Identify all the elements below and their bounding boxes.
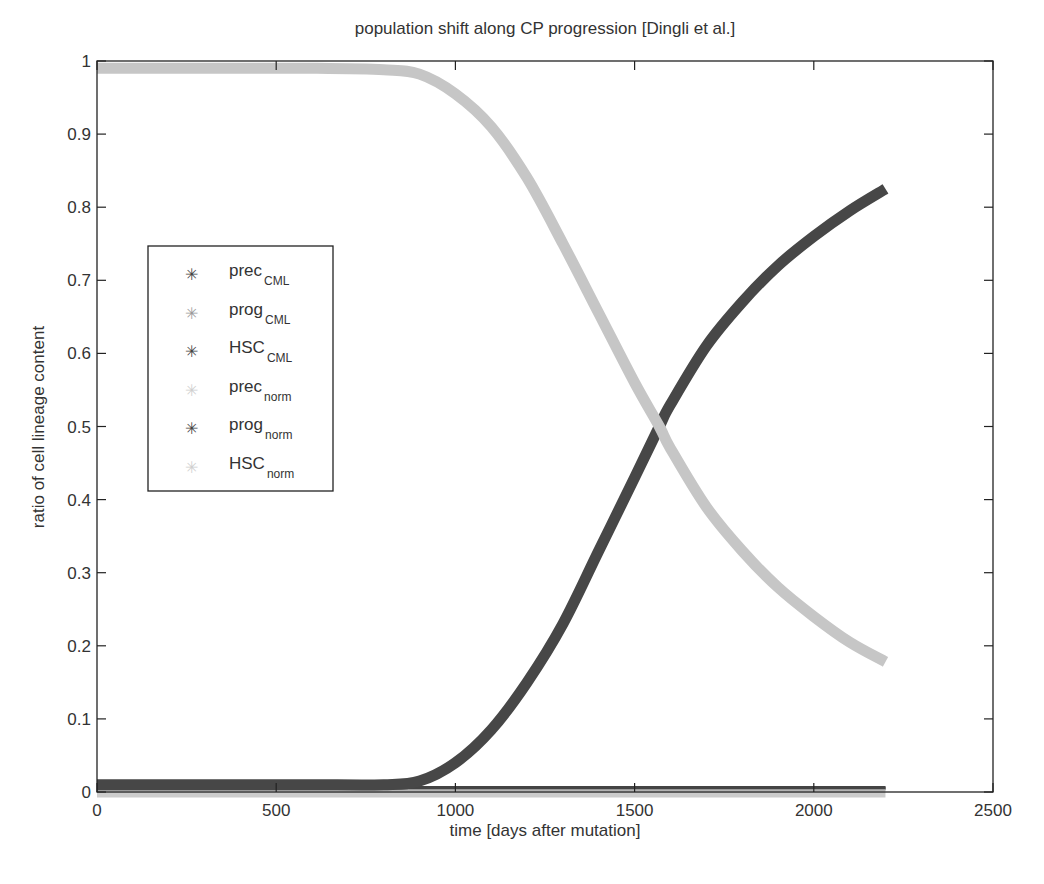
y-tick-label: 0.6 bbox=[67, 344, 91, 363]
x-tick-label: 1500 bbox=[616, 801, 654, 820]
legend: ✳precCML✳progCML✳HSCCML✳precnorm✳prognor… bbox=[148, 246, 333, 491]
asterisk-marker-icon: ✳ bbox=[185, 305, 198, 322]
asterisk-marker-icon: ✳ bbox=[185, 343, 198, 360]
y-tick-label: 1 bbox=[82, 52, 91, 71]
y-tick-label: 0.9 bbox=[67, 125, 91, 144]
y-tick-label: 0.7 bbox=[67, 271, 91, 290]
asterisk-marker-icon: ✳ bbox=[185, 266, 198, 283]
x-axis-label: time [days after mutation] bbox=[450, 821, 641, 840]
asterisk-marker-icon: ✳ bbox=[185, 420, 198, 437]
y-tick-label: 0.1 bbox=[67, 710, 91, 729]
asterisk-marker-icon: ✳ bbox=[185, 382, 198, 399]
asterisk-marker-icon: ✳ bbox=[185, 459, 198, 476]
chart: population shift along CP progression [D… bbox=[0, 0, 1044, 884]
x-tick-label: 500 bbox=[262, 801, 290, 820]
y-axis-label: ratio of cell lineage content bbox=[29, 326, 48, 529]
y-tick-label: 0.2 bbox=[67, 637, 91, 656]
y-tick-label: 0.3 bbox=[67, 564, 91, 583]
chart-title: population shift along CP progression [D… bbox=[355, 19, 736, 38]
x-tick-label: 2500 bbox=[974, 801, 1012, 820]
y-tick-label: 0.5 bbox=[67, 418, 91, 437]
x-tick-label: 1000 bbox=[436, 801, 474, 820]
y-tick-label: 0 bbox=[82, 783, 91, 802]
y-tick-label: 0.8 bbox=[67, 198, 91, 217]
y-tick-label: 0.4 bbox=[67, 491, 91, 510]
x-tick-label: 2000 bbox=[795, 801, 833, 820]
x-tick-label: 0 bbox=[92, 801, 101, 820]
